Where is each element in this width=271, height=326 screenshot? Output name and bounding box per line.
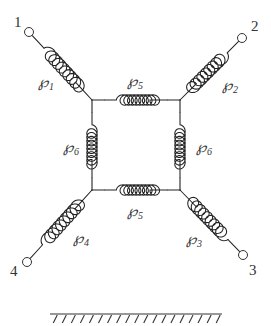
junction-bl [91,189,92,190]
ground-hatch [53,315,57,323]
spring-p5_bottom [104,185,168,195]
ground-hatch [162,315,166,323]
ground-hatch [62,315,66,323]
terminals [23,28,248,267]
terminal-1-label: 1 [14,14,22,30]
junction-br [179,189,180,190]
ground-hatch [216,315,220,323]
spring-label-p1: ℘1 [38,74,54,92]
ground-hatch [89,315,93,323]
spring-label-p4: ℘4 [73,230,89,248]
spring-label-p2: ℘2 [222,77,238,95]
ground-hatch [189,315,193,323]
spring-p5_top [104,95,168,105]
labels: ℘1℘2℘3℘4℘5℘5℘6℘61234 [10,14,259,279]
ground-hatch [207,315,211,323]
spring-label-p5_bottom: ℘5 [127,203,143,221]
ground-hatch [71,315,75,323]
ground-hatch [99,315,103,323]
terminal-1-node [25,28,34,37]
ground-hatch [117,315,121,323]
junction-tr [179,99,180,100]
terminal-4-label: 4 [10,263,18,279]
spring-label-p5_top: ℘5 [127,73,143,91]
spring-p6_left [87,112,97,178]
terminal-3-label: 3 [249,262,257,278]
terminal-3-node [239,251,248,260]
spring-network-diagram: ℘1℘2℘3℘4℘5℘5℘6℘61234 [0,0,271,326]
terminal-2-node [238,34,247,43]
ground-hatch [180,315,184,323]
junction-tl [91,99,92,100]
ground-hatch [126,315,130,323]
spring-label-p3: ℘3 [186,231,202,249]
ground-hatch [80,315,84,323]
ground-hatch [144,315,148,323]
ground-symbol [50,314,222,323]
spring-label-p6_left: ℘6 [63,139,79,157]
connecting-wires [92,100,180,190]
terminal-4-node [23,258,32,267]
spring-label-p6_right: ℘6 [196,139,212,157]
terminal-2-label: 2 [251,18,259,34]
ground-hatch [153,315,157,323]
spring-p1 [32,35,92,100]
ground-hatch [135,315,139,323]
ground-hatch [108,315,112,323]
spring-p4 [30,190,92,259]
ground-hatch [198,315,202,323]
ground-hatch [171,315,175,323]
spring-p6_right [175,112,185,178]
